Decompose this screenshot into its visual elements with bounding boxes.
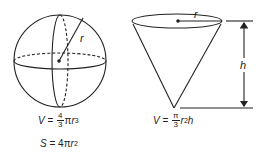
volume-symbol: V (38, 115, 45, 126)
denominator: 3 (174, 121, 178, 129)
sphere (14, 15, 106, 107)
exponent: 2 (74, 140, 78, 147)
sphere-volume-formula: V = 4 3 πr3 (38, 112, 79, 129)
volume-symbol: V (153, 115, 160, 126)
cone-center-dot (176, 19, 180, 23)
fraction: 4 3 (57, 112, 63, 129)
pi-symbol: π (64, 138, 71, 149)
fraction: π 3 (172, 112, 180, 129)
sphere-center-dot (57, 59, 61, 63)
cone-radius-label: r (194, 8, 199, 20)
geometry-diagram: r r h (0, 0, 264, 161)
exponent: 3 (75, 117, 79, 124)
surface-symbol: S (40, 138, 47, 149)
height-variable: h (188, 115, 194, 126)
sphere-radius-label: r (80, 32, 85, 44)
equals-coefficient: = 4 (47, 138, 64, 149)
denominator: 3 (58, 121, 62, 129)
cone (132, 14, 253, 108)
cone-left-side (133, 24, 174, 108)
pi-symbol: π (65, 115, 72, 126)
sphere-meridian-back (60, 15, 68, 107)
equals-sign: = (160, 115, 171, 126)
equals-sign: = (45, 115, 56, 126)
cone-right-side (174, 24, 221, 108)
sphere-surface-formula: S = 4πr2 (40, 138, 78, 149)
cone-height-label: h (240, 59, 246, 71)
cone-volume-formula: V = π 3 r2h (153, 112, 193, 129)
